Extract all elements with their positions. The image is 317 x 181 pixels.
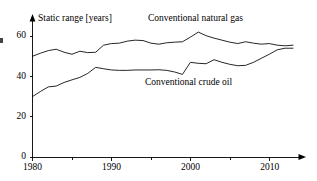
y-axis-arrow-icon [30, 14, 36, 22]
x-tick-label-2010: 2010 [252, 163, 288, 173]
chart-container: 60 40 20 0 1980 1990 2000 2010 Static ra… [0, 0, 317, 181]
x-tick-label-1990: 1990 [94, 163, 130, 173]
y-tick-label-0: 0 [8, 152, 26, 162]
series-line-conventional-natural-gas [33, 32, 294, 56]
y-tick-label-60: 60 [8, 31, 26, 41]
x-tick-label-1980: 1980 [15, 163, 51, 173]
line-chart-canvas [0, 0, 317, 181]
series-label-natural-gas: Conventional natural gas [148, 14, 243, 24]
y-tick-label-20: 20 [8, 112, 26, 122]
y-tick-label-40: 40 [8, 72, 26, 82]
cropped-edge-glyph [0, 38, 3, 43]
series-label-crude-oil: Conventional crude oil [145, 78, 232, 88]
x-axis-arrow-icon [299, 154, 307, 160]
series-line-conventional-crude-oil [33, 48, 294, 96]
x-tick-label-2000: 2000 [173, 163, 209, 173]
chart-title-static-range: Static range [years] [38, 14, 112, 24]
